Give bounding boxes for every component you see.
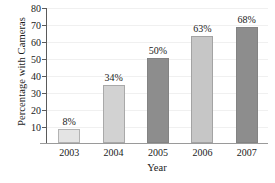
bar-column: 50% [147, 46, 169, 143]
y-axis-tick-label: 80 [31, 3, 41, 14]
bar-value-label: 63% [193, 24, 211, 34]
bar-value-label: 8% [63, 117, 76, 127]
bar-column: 63% [191, 24, 213, 143]
bar-column: 68% [236, 15, 258, 143]
bar-value-label: 50% [149, 46, 167, 56]
y-axis-tick [42, 110, 46, 111]
x-axis-tick-label: 2006 [192, 147, 212, 158]
y-axis-title: Percentage with Cameras [16, 7, 27, 137]
y-axis-tick-label: 60 [31, 37, 41, 48]
bar-column: 34% [103, 73, 125, 143]
y-axis-tick [42, 25, 46, 26]
bar [58, 129, 80, 143]
x-axis-tick-label: 2004 [104, 147, 124, 158]
y-axis-tick-label: 50 [31, 54, 41, 65]
x-axis-title: Year [46, 162, 268, 173]
x-axis-tick-label: 2007 [237, 147, 257, 158]
y-axis-tick-label: 30 [31, 88, 41, 99]
bar [191, 36, 213, 143]
bar-value-label: 68% [238, 15, 256, 25]
y-axis-tick [42, 8, 46, 9]
x-axis-labels: 20032004200520062007 [47, 147, 269, 161]
plot-area: 1020304050607080 8%34%50%63%68% [46, 8, 268, 144]
bar-chart: Percentage with Cameras 1020304050607080… [0, 0, 275, 183]
bar-column: 8% [58, 117, 80, 143]
y-axis-tick-label: 40 [31, 71, 41, 82]
y-axis-tick-label: 70 [31, 20, 41, 31]
bar [147, 58, 169, 143]
y-axis-tick [42, 76, 46, 77]
bar [103, 85, 125, 143]
y-axis-tick [42, 93, 46, 94]
x-axis-tick-label: 2005 [148, 147, 168, 158]
x-axis-tick-label: 2003 [59, 147, 79, 158]
y-axis-tick [42, 42, 46, 43]
y-axis-tick [42, 127, 46, 128]
bar-value-label: 34% [104, 73, 122, 83]
y-axis-tick [42, 59, 46, 60]
bars-group: 8%34%50%63%68% [47, 8, 268, 143]
y-axis-tick-label: 10 [31, 122, 41, 133]
bar [236, 27, 258, 143]
y-axis-tick-label: 20 [31, 105, 41, 116]
x-axis-line [40, 143, 268, 144]
